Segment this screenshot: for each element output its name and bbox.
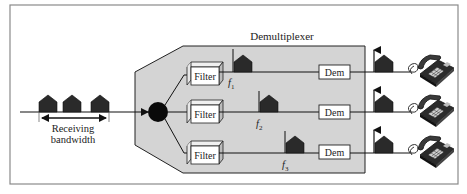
dem-label-2: Dem	[325, 107, 345, 118]
demultiplexer-diagram: Demultiplexer Receiving bandwidth Filter…	[0, 0, 467, 194]
dem-label-1: Dem	[325, 67, 345, 78]
filter-label-3: Filter	[194, 150, 216, 161]
bandwidth-label-line2: bandwidth	[51, 134, 96, 145]
filter-label-1: Filter	[194, 71, 216, 82]
dem-label-3: Dem	[325, 147, 345, 158]
incoming-pulses	[39, 95, 109, 112]
bandwidth-label-line1: Receiving	[52, 123, 95, 134]
demultiplexer-title: Demultiplexer	[250, 30, 314, 42]
filter-box-1: Filter	[187, 62, 223, 85]
filter-box-3: Filter	[187, 141, 223, 164]
filter-label-2: Filter	[194, 109, 216, 120]
filter-box-2: Filter	[187, 100, 223, 123]
